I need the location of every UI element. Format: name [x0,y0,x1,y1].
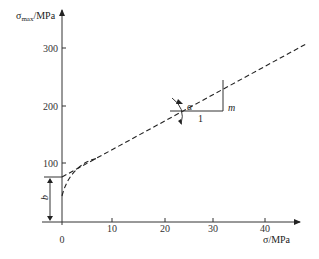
angle-label: α [187,101,193,112]
intercept-label: b [39,195,50,200]
run-label: 1 [198,113,203,124]
y-axis-label: σmax/MPa [16,10,56,23]
y-ticks: 100 200 300 [43,43,66,169]
x-tick-label: 40 [260,223,270,234]
x-tick-label: 0 [60,234,65,245]
x-tick-label: 30 [208,223,218,234]
y-tick-label: 300 [43,43,58,54]
slope-triangle: α 1 m [170,80,235,125]
measured-curve [62,158,99,196]
x-tick-label: 20 [160,223,170,234]
y-tick-label: 100 [43,158,58,169]
chart-canvas: 100 200 300 0 10 20 30 40 σmax/MPa σ/MPa… [0,0,319,259]
x-tick-label: 10 [107,223,117,234]
rise-label: m [228,102,235,113]
y-tick-label: 200 [43,101,58,112]
intercept-annotation: b [39,177,62,221]
x-axis-label: σ/MPa [263,234,291,245]
